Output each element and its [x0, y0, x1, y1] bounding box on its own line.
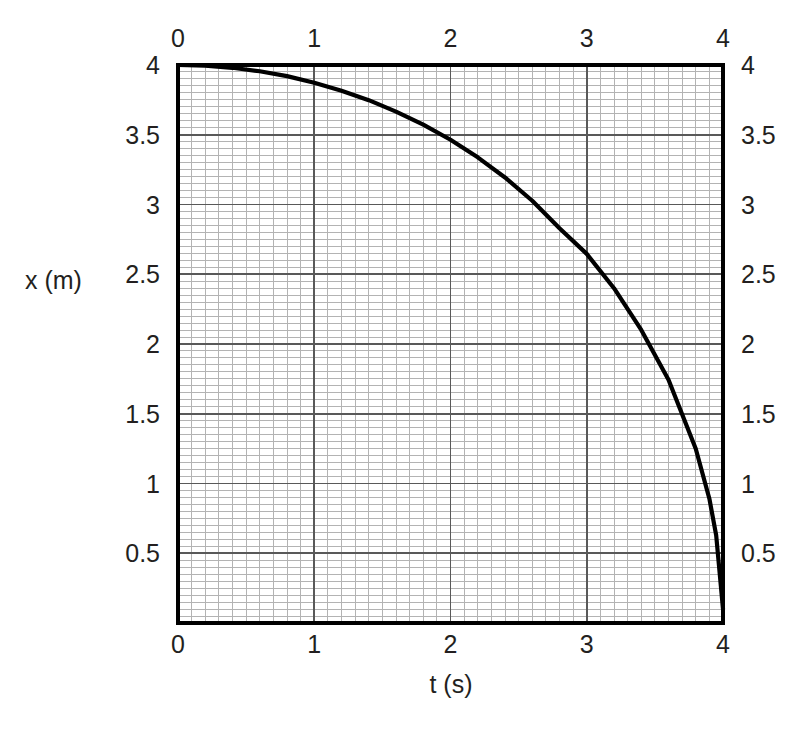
tick-label: 3.5 [125, 122, 160, 147]
tick-label: 1 [307, 26, 321, 51]
plot-canvas [0, 0, 807, 738]
tick-label: 3.5 [741, 122, 776, 147]
tick-label: 2 [741, 332, 755, 357]
tick-label: 3 [741, 192, 755, 217]
tick-label: 2.5 [125, 262, 160, 287]
tick-label: 2 [444, 26, 458, 51]
y-axis-title: x (m) [25, 268, 82, 293]
tick-label: 1 [741, 471, 755, 496]
tick-label: 3 [580, 632, 594, 657]
tick-label: 3 [580, 26, 594, 51]
tick-label: 1.5 [741, 401, 776, 426]
chart-figure: 01234 01234 0.511.522.533.54 0.511.522.5… [0, 0, 807, 738]
tick-label: 2.5 [741, 262, 776, 287]
tick-label: 2 [444, 632, 458, 657]
x-axis-title: t (s) [429, 672, 472, 697]
tick-label: 1.5 [125, 401, 160, 426]
tick-label: 4 [741, 53, 755, 78]
tick-label: 0 [171, 26, 185, 51]
tick-label: 1 [146, 471, 160, 496]
tick-label: 4 [716, 632, 730, 657]
tick-label: 4 [716, 26, 730, 51]
tick-label: 0 [171, 632, 185, 657]
tick-label: 2 [146, 332, 160, 357]
tick-label: 0.5 [741, 541, 776, 566]
tick-label: 3 [146, 192, 160, 217]
tick-label: 4 [146, 53, 160, 78]
tick-label: 1 [307, 632, 321, 657]
tick-label: 0.5 [125, 541, 160, 566]
